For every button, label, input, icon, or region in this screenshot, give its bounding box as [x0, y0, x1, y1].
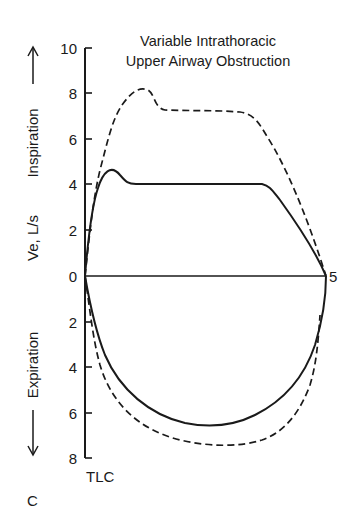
dashed-curve-inspiration — [85, 89, 326, 276]
y-tick-label: 4 — [69, 176, 77, 193]
y-tick-label: 8 — [69, 85, 77, 102]
y-axis-inspiration-label: Inspiration — [24, 108, 41, 177]
y-axis-ticks — [85, 48, 92, 458]
y-tick-label: 2 — [69, 314, 77, 331]
flow-volume-chart: Variable Intrathoracic Upper Airway Obst… — [0, 0, 358, 523]
y-tick-label: 8 — [69, 450, 77, 467]
chart-title-line-2: Upper Airway Obstruction — [126, 53, 290, 69]
x-label-tlc: TLC — [86, 468, 115, 485]
solid-curve-inspiration — [85, 170, 326, 276]
inspiration-arrow-icon — [28, 47, 38, 84]
solid-curve-expiration — [85, 276, 326, 425]
y-tick-label: 10 — [60, 40, 77, 57]
y-tick-label: 4 — [69, 359, 77, 376]
x-end-label: 5 — [329, 268, 337, 285]
panel-label: C — [27, 492, 38, 509]
y-axis-expiration-label: Expiration — [24, 332, 41, 399]
y-tick-label: 2 — [69, 222, 77, 239]
y-tick-label: 6 — [69, 131, 77, 148]
y-tick-label: 6 — [69, 405, 77, 422]
y-tick-label: 0 — [69, 268, 77, 285]
expiration-arrow-icon — [28, 410, 38, 455]
dashed-curve-expiration — [85, 276, 320, 445]
chart-title-line-1: Variable Intrathoracic — [140, 33, 276, 49]
y-axis-title: Ve, L/s — [24, 215, 41, 261]
